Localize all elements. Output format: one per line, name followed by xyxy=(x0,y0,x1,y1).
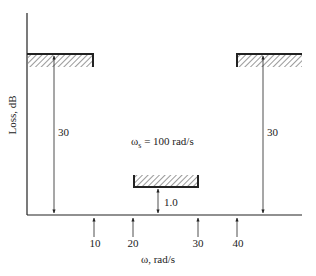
passband-loss-label: 1.0 xyxy=(164,196,178,208)
right-stopband-box xyxy=(236,54,302,67)
tick-label-10: 10 xyxy=(90,237,102,249)
y-axis-label: Loss, dB xyxy=(6,95,18,134)
sampling-frequency-note: ωs = 100 rad/s xyxy=(131,135,194,150)
passband-box xyxy=(133,175,199,188)
right-stopband-loss-label: 30 xyxy=(267,126,279,138)
x-axis-label: ω, rad/s xyxy=(141,253,175,265)
left-stopband-box xyxy=(27,54,94,67)
loss-spec-diagram: 10 20 30 40 ω, rad/s Loss, dB 30 30 1.0 … xyxy=(0,0,316,276)
tick-label-20: 20 xyxy=(128,237,140,249)
left-stopband-loss-label: 30 xyxy=(58,126,70,138)
tick-label-40: 40 xyxy=(233,237,245,249)
tick-label-30: 30 xyxy=(193,237,205,249)
